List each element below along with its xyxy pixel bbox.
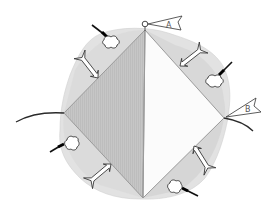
- diamond-diagram: A B: [0, 0, 277, 211]
- flag-a-ball-icon: [142, 21, 148, 27]
- flag-a-pennant: [148, 16, 182, 30]
- curve-line-left: [16, 113, 64, 122]
- flag-b-pennant: [226, 98, 261, 117]
- cloud-icon: [206, 75, 224, 87]
- cloud-icon: [103, 36, 120, 48]
- curve-line-right: [224, 118, 253, 131]
- flag-b: B: [226, 98, 261, 117]
- flag-b-label: B: [245, 105, 251, 114]
- flag-a-label: A: [166, 21, 172, 30]
- cloud-icon: [168, 180, 182, 193]
